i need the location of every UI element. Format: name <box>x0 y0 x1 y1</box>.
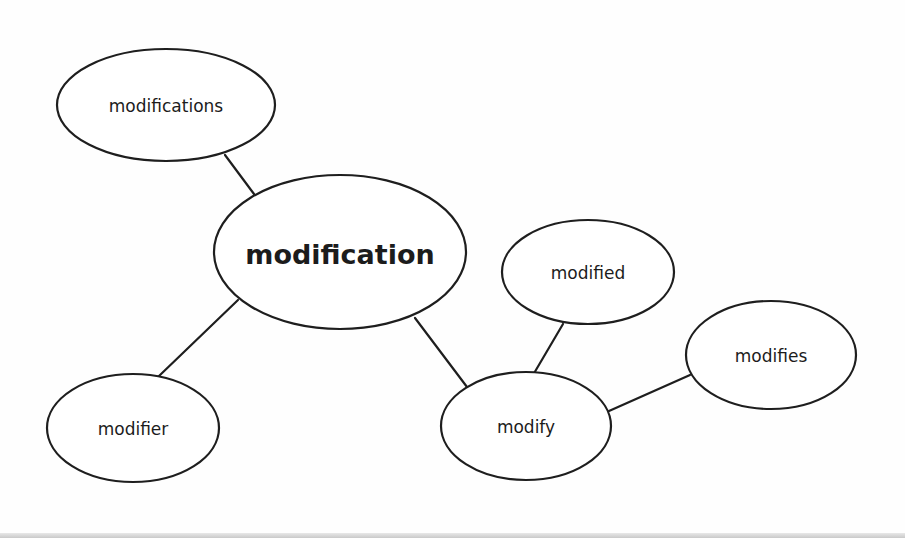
mind-map: modifications modification modifier modi… <box>0 0 905 538</box>
node-modifications: modifications <box>57 49 275 161</box>
diagram-canvas: modifications modification modifier modi… <box>0 0 905 538</box>
node-modifications-label: modifications <box>109 96 224 116</box>
node-modifier: modifier <box>47 374 219 482</box>
node-modify: modify <box>441 372 611 480</box>
bottom-edge-band <box>0 533 905 538</box>
node-modification-label: modification <box>245 239 434 270</box>
node-modifier-label: modifier <box>98 419 169 439</box>
edge-modified-modify <box>533 324 563 375</box>
node-modifies: modifies <box>686 301 856 409</box>
edge-modifications-modification <box>225 155 254 194</box>
node-modification-center: modification <box>214 175 466 329</box>
edge-modify-modifies <box>609 375 690 411</box>
node-modify-label: modify <box>497 417 555 437</box>
edge-modification-modify <box>415 318 467 387</box>
node-modified-label: modified <box>551 263 625 283</box>
node-group: modifications modification modifier modi… <box>47 49 856 482</box>
node-modifies-label: modifies <box>735 346 808 366</box>
edge-modification-modifier <box>159 300 238 376</box>
node-modified: modified <box>502 220 674 324</box>
